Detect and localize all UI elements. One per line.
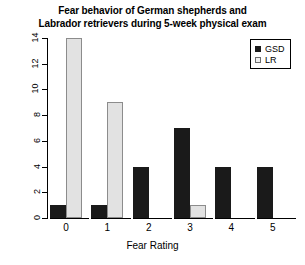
chart-title: Fear behavior of German shepherds and La…: [0, 4, 305, 30]
y-axis-tick: [42, 38, 47, 39]
x-axis-tick-label: 5: [258, 222, 288, 233]
bar-gsd-2: [133, 167, 149, 218]
legend-label-gsd: GSD: [265, 44, 285, 54]
x-axis-baseline-segment: [215, 218, 254, 219]
bar-gsd-3: [174, 128, 190, 218]
x-axis-baseline-segment: [50, 218, 89, 219]
x-axis-tick-label: 3: [175, 222, 205, 233]
bar-gsd-4: [215, 167, 231, 218]
y-axis-tick-label-text: 10: [30, 84, 39, 94]
y-axis-tick-label: 8: [0, 110, 40, 119]
y-axis-tick: [42, 64, 47, 65]
bar-lr-1: [107, 102, 123, 218]
x-axis-tick-label: 2: [134, 222, 164, 233]
y-axis-tick: [42, 167, 47, 168]
x-axis-baseline-segment: [133, 218, 172, 219]
legend-label-lr: LR: [265, 55, 277, 65]
x-axis-baseline-segment: [91, 218, 130, 219]
x-axis-tick-label: 0: [51, 222, 81, 233]
legend-item-lr: LR: [255, 54, 285, 65]
x-axis-title: Fear Rating: [0, 240, 305, 252]
chart-title-line-1: Fear behavior of German shepherds and: [0, 4, 305, 17]
x-axis-tick-label: 4: [216, 222, 246, 233]
y-axis-tick: [42, 218, 47, 219]
x-axis-baseline-segment: [174, 218, 213, 219]
bar-lr-3: [190, 205, 206, 218]
bar-gsd-1: [91, 205, 107, 218]
x-axis-baseline-segment: [257, 218, 296, 219]
y-axis-tick-label-text: 6: [33, 138, 42, 143]
bar-gsd-5: [257, 167, 273, 218]
y-axis-tick-label: 2: [0, 187, 40, 196]
bar-lr-0: [66, 38, 82, 218]
legend: GSD LR: [250, 39, 291, 69]
chart-title-line-2: Labrador retrievers during 5-week physic…: [0, 17, 305, 30]
x-axis-tick-label: 1: [92, 222, 122, 233]
legend-swatch-lr-icon: [255, 57, 261, 63]
y-axis-tick-label-text: 4: [33, 164, 42, 169]
y-axis-tick-label: 10: [0, 84, 40, 93]
y-axis-tick-label-text: 0: [33, 215, 42, 220]
y-axis-tick-label-text: 14: [30, 32, 39, 42]
y-axis-tick-label: 6: [0, 136, 40, 145]
y-axis-tick: [42, 115, 47, 116]
y-axis-tick-label: 14: [0, 33, 40, 42]
bar-gsd-0: [50, 205, 66, 218]
legend-item-gsd: GSD: [255, 43, 285, 54]
y-axis-tick: [42, 192, 47, 193]
y-axis-tick-label: 4: [0, 162, 40, 171]
y-axis-tick-label: 0: [0, 213, 40, 222]
y-axis-tick-label-text: 8: [33, 112, 42, 117]
y-axis-tick: [42, 89, 47, 90]
y-axis-tick-label: 12: [0, 59, 40, 68]
y-axis-tick-label-text: 12: [30, 58, 39, 68]
y-axis-tick-label-text: 2: [33, 189, 42, 194]
y-axis-tick: [42, 141, 47, 142]
legend-swatch-gsd-icon: [255, 46, 261, 52]
bar-chart: Fear behavior of German shepherds and La…: [0, 0, 305, 265]
